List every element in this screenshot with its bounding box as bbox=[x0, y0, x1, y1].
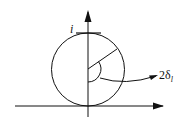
point-label-i: i bbox=[70, 22, 73, 36]
angle-label-subscript: l bbox=[171, 75, 174, 84]
horizontal-axis-arrow-icon bbox=[153, 103, 164, 110]
pointer-arrow-head-icon bbox=[149, 75, 158, 80]
angle-label-main: 2δ bbox=[159, 68, 171, 82]
vertical-axis-arrow-icon bbox=[85, 10, 92, 22]
angle-label: 2δl bbox=[159, 68, 174, 84]
radius-line bbox=[88, 49, 117, 69]
pointer-arrow bbox=[100, 76, 156, 82]
diagram-canvas: i 2δl bbox=[0, 0, 188, 121]
